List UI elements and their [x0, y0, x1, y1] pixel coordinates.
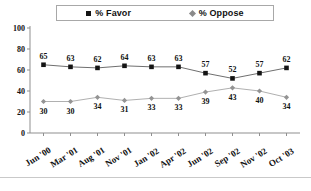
- x-tick-labels: Jun '00Mar '01Aug '01Nov '01Jan '02Apr '…: [0, 142, 311, 178]
- y-tick-label: 100: [13, 24, 25, 33]
- data-label-oppose: 30: [40, 107, 48, 116]
- data-point-oppose: [95, 95, 100, 100]
- data-point-favor: [41, 62, 46, 67]
- data-point-favor: [284, 66, 289, 71]
- data-label-favor: 62: [94, 55, 102, 64]
- data-label-oppose: 39: [202, 97, 210, 106]
- data-label-oppose: 31: [121, 105, 129, 114]
- data-point-oppose: [203, 89, 208, 94]
- data-point-oppose: [122, 98, 127, 103]
- data-label-favor: 57: [256, 60, 264, 69]
- data-label-favor: 63: [148, 54, 156, 63]
- data-label-oppose: 33: [175, 103, 183, 112]
- y-axis: 020406080100: [13, 24, 30, 138]
- data-point-favor: [95, 66, 100, 71]
- legend-label-favor: % Favor: [95, 9, 131, 18]
- data-label-oppose: 43: [229, 93, 237, 102]
- data-label-favor: 64: [121, 53, 129, 62]
- data-point-oppose: [257, 88, 262, 93]
- x-axis: [30, 133, 300, 136]
- data-point-oppose: [68, 99, 73, 104]
- data-label-oppose: 40: [256, 96, 264, 105]
- data-point-oppose: [176, 96, 181, 101]
- y-tick-label: 60: [17, 66, 25, 75]
- legend-label-oppose: % Oppose: [199, 9, 244, 18]
- data-labels-group: 6563626463635752576230303431333339434034: [40, 52, 291, 116]
- data-label-oppose: 34: [94, 102, 102, 111]
- data-label-oppose: 34: [283, 102, 291, 111]
- x-tick-label: Jun '00: [18, 145, 52, 171]
- data-point-oppose: [41, 99, 46, 104]
- data-label-favor: 65: [40, 52, 48, 61]
- data-label-favor: 52: [229, 65, 237, 74]
- data-point-favor: [176, 65, 181, 70]
- data-point-favor: [122, 64, 127, 69]
- diamond-marker-icon: [189, 9, 196, 16]
- line-chart: % Favor % Oppose 020406080100 6563626463…: [0, 0, 311, 191]
- plot-area: 020406080100 656362646363575257623030343…: [0, 20, 311, 145]
- series-line-oppose: [44, 88, 287, 102]
- data-point-favor: [68, 65, 73, 70]
- series-line-favor: [44, 65, 287, 79]
- y-tick-label: 20: [17, 108, 25, 117]
- data-label-favor: 62: [283, 55, 291, 64]
- data-label-oppose: 30: [67, 107, 75, 116]
- data-point-oppose: [230, 85, 235, 90]
- bottom-divider: [0, 177, 311, 178]
- legend-item-oppose[interactable]: % Oppose: [190, 9, 244, 18]
- data-point-favor: [230, 76, 235, 81]
- data-label-favor: 63: [67, 54, 75, 63]
- y-tick-label: 40: [17, 87, 25, 96]
- data-label-oppose: 33: [148, 103, 156, 112]
- data-label-favor: 57: [202, 60, 210, 69]
- legend-item-favor[interactable]: % Favor: [86, 9, 131, 18]
- data-label-favor: 63: [175, 54, 183, 63]
- data-point-oppose: [284, 95, 289, 100]
- y-tick-label: 0: [21, 129, 25, 138]
- square-marker-icon: [86, 11, 91, 16]
- y-tick-label: 80: [17, 45, 25, 54]
- data-point-oppose: [149, 96, 154, 101]
- data-point-favor: [149, 65, 154, 70]
- data-point-favor: [203, 71, 208, 76]
- data-point-favor: [257, 71, 262, 76]
- data-series-group: [41, 62, 289, 104]
- chart-legend: % Favor % Oppose: [56, 5, 274, 21]
